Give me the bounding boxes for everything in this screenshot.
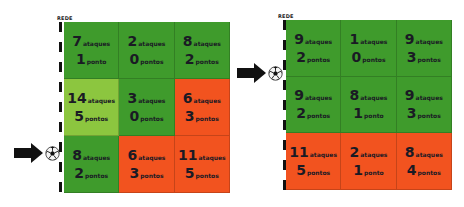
- points-count: 0: [351, 50, 361, 64]
- attacks-line: 9ataques: [294, 32, 332, 46]
- points-count: 1: [353, 106, 363, 120]
- attacks-line: 2ataques: [128, 34, 166, 48]
- points-line: 1ponto: [353, 163, 383, 177]
- zone-cell: 11ataques 5pontos: [286, 133, 341, 190]
- zone-cell: 2ataques 1ponto: [341, 133, 396, 190]
- attacks-count: 8: [183, 34, 193, 48]
- attacks-line: 14ataques: [67, 91, 115, 105]
- court-left: REDE 7ataques 1ponto 2ataques 0pontos 8a…: [0, 0, 232, 207]
- attacks-line: 3ataques: [128, 91, 166, 105]
- points-label: pontos: [418, 170, 441, 176]
- points-label: ponto: [364, 113, 384, 119]
- points-line: 3pontos: [129, 166, 163, 180]
- attacks-label: ataques: [305, 95, 332, 101]
- attacks-label: ataques: [198, 155, 225, 161]
- zone-cell: 2ataques 0pontos: [119, 22, 174, 79]
- attacks-line: 8ataques: [183, 34, 221, 48]
- court-right: REDE 9ataques 2pontos 1ataques 0pontos 9…: [232, 0, 464, 207]
- points-line: 2pontos: [296, 50, 330, 64]
- attacks-label: ataques: [360, 152, 387, 158]
- attacks-label: ataques: [138, 155, 165, 161]
- attacks-count: 8: [350, 88, 360, 102]
- attacks-count: 9: [405, 32, 415, 46]
- attacks-count: 2: [350, 145, 360, 159]
- attacks-count: 11: [289, 145, 308, 159]
- zone-grid: 7ataques 1ponto 2ataques 0pontos 8ataque…: [64, 22, 230, 193]
- arrow-right-icon: [31, 143, 43, 163]
- attacks-count: 9: [294, 32, 304, 46]
- points-count: 5: [74, 109, 84, 123]
- points-count: 3: [407, 50, 417, 64]
- points-label: ponto: [87, 59, 107, 65]
- net-label: REDE: [57, 15, 73, 21]
- attacks-count: 6: [183, 91, 193, 105]
- attacks-label: ataques: [194, 41, 221, 47]
- points-label: pontos: [418, 113, 441, 119]
- points-count: 2: [296, 50, 306, 64]
- points-count: 4: [407, 163, 417, 177]
- soccer-ball-icon: [45, 146, 60, 161]
- attacks-label: ataques: [360, 95, 387, 101]
- zone-cell: 8ataques 2pontos: [175, 22, 230, 79]
- points-count: 3: [129, 166, 139, 180]
- points-line: 5pontos: [185, 166, 219, 180]
- points-line: 0pontos: [129, 52, 163, 66]
- attacks-line: 11ataques: [289, 145, 337, 159]
- attacks-label: ataques: [83, 41, 110, 47]
- points-label: pontos: [418, 57, 441, 63]
- attacks-count: 8: [72, 148, 82, 162]
- points-label: pontos: [307, 170, 330, 176]
- points-line: 5pontos: [74, 109, 108, 123]
- zone-cell: 3ataques 0pontos: [119, 79, 174, 136]
- points-line: 4pontos: [407, 163, 441, 177]
- attacks-count: 1: [350, 32, 360, 46]
- attacks-count: 14: [67, 91, 86, 105]
- zone-cell: 8ataques 1ponto: [341, 77, 396, 134]
- points-count: 1: [76, 52, 86, 66]
- points-count: 3: [185, 109, 195, 123]
- attacks-line: 7ataques: [72, 34, 110, 48]
- zone-cell: 9ataques 2pontos: [286, 20, 341, 77]
- points-line: 3pontos: [185, 109, 219, 123]
- attacks-label: ataques: [138, 41, 165, 47]
- points-line: 0pontos: [351, 50, 385, 64]
- attacks-line: 8ataques: [350, 88, 388, 102]
- zone-cell: 1ataques 0pontos: [341, 20, 396, 77]
- attacks-label: ataques: [310, 152, 337, 158]
- attacks-line: 1ataques: [350, 32, 388, 46]
- attacks-line: 6ataques: [183, 91, 221, 105]
- points-label: pontos: [85, 116, 108, 122]
- attacks-line: 11ataques: [178, 148, 226, 162]
- points-line: 2pontos: [74, 166, 108, 180]
- points-count: 0: [129, 109, 139, 123]
- attacks-label: ataques: [305, 39, 332, 45]
- zone-cell: 11ataques 5pontos: [175, 136, 230, 193]
- points-count: 5: [296, 163, 306, 177]
- attacks-label: ataques: [138, 98, 165, 104]
- zone-cell: 6ataques 3pontos: [119, 136, 174, 193]
- points-label: pontos: [140, 116, 163, 122]
- attacks-label: ataques: [416, 39, 443, 45]
- points-label: pontos: [362, 57, 385, 63]
- points-label: pontos: [307, 113, 330, 119]
- attacks-count: 3: [128, 91, 138, 105]
- serve-indicator: [237, 63, 283, 83]
- zone-cell: 7ataques 1ponto: [64, 22, 119, 79]
- points-count: 2: [74, 166, 84, 180]
- zone-grid: 9ataques 2pontos 1ataques 0pontos 9ataqu…: [286, 20, 452, 190]
- zone-cell: 14ataques 5pontos: [64, 79, 119, 136]
- attacks-count: 9: [294, 88, 304, 102]
- attacks-count: 11: [178, 148, 197, 162]
- attacks-label: ataques: [88, 98, 115, 104]
- points-line: 3pontos: [407, 106, 441, 120]
- attacks-line: 6ataques: [128, 148, 166, 162]
- points-count: 1: [353, 163, 363, 177]
- attacks-line: 2ataques: [350, 145, 388, 159]
- attacks-label: ataques: [360, 39, 387, 45]
- points-label: pontos: [196, 59, 219, 65]
- attacks-label: ataques: [194, 98, 221, 104]
- attacks-count: 2: [128, 34, 138, 48]
- attacks-label: ataques: [83, 155, 110, 161]
- points-line: 3pontos: [407, 50, 441, 64]
- attacks-label: ataques: [416, 152, 443, 158]
